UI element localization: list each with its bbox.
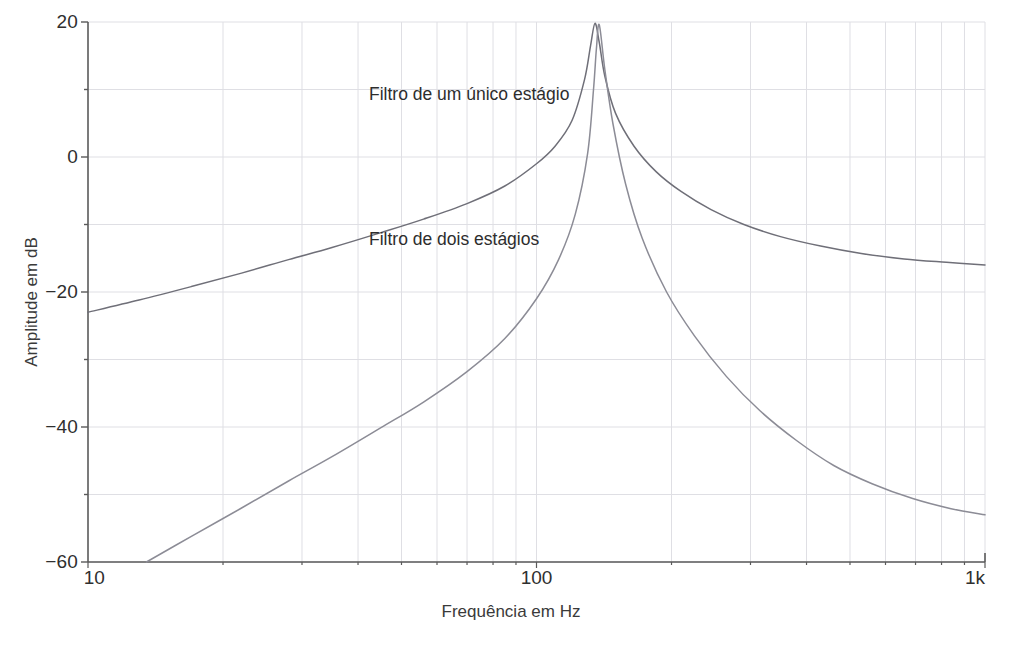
- y-tick-label: 0: [67, 147, 78, 166]
- y-tick-label: −20: [45, 282, 78, 301]
- y-axis-title: Amplitude em dB: [22, 192, 42, 412]
- series-line-2: [146, 24, 985, 562]
- chart-figure: Amplitude em dB Frequência em Hz 200−20−…: [0, 0, 1022, 646]
- annotation-single-stage: Filtro de um único estágio: [369, 86, 569, 104]
- y-tick-label: −60: [45, 552, 78, 571]
- x-axis-title: Frequência em Hz: [0, 602, 1022, 622]
- x-tick-label: 10: [84, 568, 105, 587]
- y-tick-label: 20: [56, 12, 78, 31]
- x-tick-label: 100: [521, 568, 553, 587]
- y-tick-label: −40: [45, 417, 78, 436]
- annotation-two-stage: Filtro de dois estágios: [369, 231, 539, 249]
- x-tick-label: 1k: [965, 568, 985, 587]
